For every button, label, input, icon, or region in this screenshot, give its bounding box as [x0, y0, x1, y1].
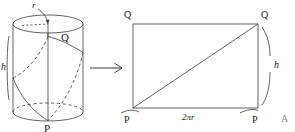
- rect-height-label: h: [274, 60, 279, 70]
- helix-front-lower: [13, 78, 48, 121]
- bottom-right-brace: [240, 109, 258, 113]
- bottom-left-brace: [121, 110, 139, 113]
- cylinder-height-brace: [7, 36, 9, 100]
- helix-back-dashed: [13, 37, 48, 79]
- rect-height-brace-lower: [262, 72, 270, 105]
- rect-top-right-q-label: Q: [261, 10, 268, 20]
- helix-back-dashed-lower: [48, 53, 83, 121]
- rect-height-brace-upper: [262, 27, 270, 56]
- transform-arrow-group: [90, 63, 122, 73]
- rectangle-group: [121, 24, 270, 113]
- figure-vector-graphics: [0, 0, 295, 132]
- cylinder-point-q-label: Q: [61, 32, 69, 43]
- rect-top-left-q-label: Q: [124, 10, 131, 20]
- cylinder-group: [7, 9, 83, 121]
- cylinder-height-label: h: [1, 62, 6, 72]
- figure-canvas: r h Q P Q Q P P 2πr h A: [0, 0, 295, 132]
- cylinder-radius-label: r: [32, 1, 36, 10]
- rect-bottom-right-p-label: P: [252, 115, 258, 125]
- rect-bottom-left-p-label: P: [124, 115, 130, 125]
- corner-mark-label: A: [281, 114, 288, 124]
- rect-width-label: 2πr: [182, 113, 195, 122]
- cylinder-point-p-label: P: [44, 123, 50, 132]
